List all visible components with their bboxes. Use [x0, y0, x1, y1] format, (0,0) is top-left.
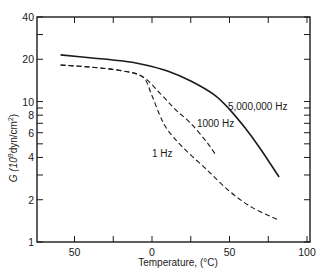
- y-tick-label: 20: [22, 53, 34, 65]
- x-axis-title: Temperature, (°C): [138, 257, 218, 268]
- x-axis-ticks: [75, 17, 308, 242]
- y-tick-label: 1: [28, 236, 34, 248]
- series-line-1-hz: [61, 65, 280, 220]
- modulus-vs-temperature-chart: 50050100 12468102040 5,000,000 Hz1000 Hz…: [0, 0, 325, 276]
- x-tick-label: 50: [224, 246, 236, 258]
- y-tick-label: 40: [22, 11, 34, 23]
- series-label: 5,000,000 Hz: [228, 101, 288, 112]
- series-label: 1 Hz: [152, 148, 173, 159]
- x-tick-label: 100: [298, 246, 316, 258]
- y-tick-label: 4: [28, 151, 34, 163]
- series-label: 1000 Hz: [197, 118, 234, 129]
- y-axis-ticks: [37, 17, 310, 242]
- y-tick-label: 8: [28, 109, 34, 121]
- y-tick-label: 10: [22, 96, 34, 108]
- plot-frame: [37, 17, 310, 242]
- series-lines: [61, 55, 280, 220]
- y-axis-tick-labels: 12468102040: [22, 11, 34, 248]
- series-line-1000-hz: [61, 65, 216, 154]
- y-tick-label: 2: [28, 194, 34, 206]
- x-tick-label: 50: [69, 246, 81, 258]
- y-axis-title: G (109dyn/cm2): [7, 114, 19, 182]
- y-tick-label: 6: [28, 127, 34, 139]
- series-labels: 5,000,000 Hz1000 Hz1 Hz: [152, 101, 287, 159]
